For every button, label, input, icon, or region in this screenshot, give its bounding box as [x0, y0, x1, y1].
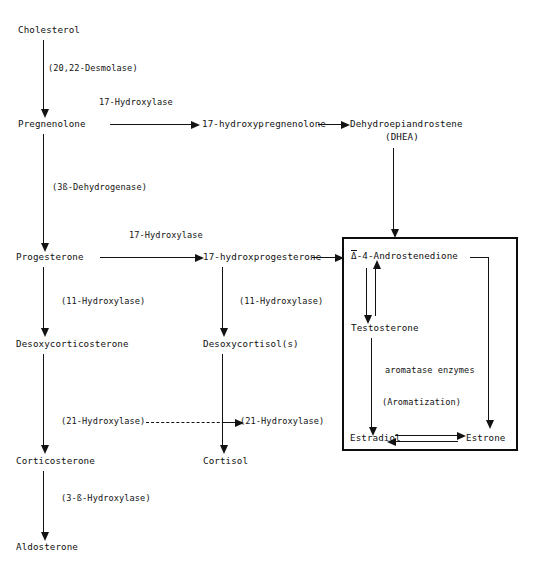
enzyme-label-aromatization: (Aromatization) [382, 396, 461, 408]
enzyme-label-21-hydroxylase-left: (21-Hydroxylase) [61, 415, 145, 427]
node-desoxycorticosterone: Desoxycorticosterone [16, 338, 129, 350]
node-pregnenolone: Pregnenolone [18, 118, 86, 130]
arrow-desoxycorticosterone-to-corticosterone [43, 354, 44, 446]
arrow-cholesterol-to-pregnenolone [43, 40, 44, 110]
enzyme-label-11-hydroxylase-mid: (11-Hydroxylase) [239, 295, 323, 307]
node-17-hydroxprogesterone: 17-hydroxprogesterone [203, 251, 321, 263]
arrow-pregnenolone-to-17-hydroxypregnenolone [110, 124, 192, 125]
arrow-testosterone-to-estradiol [371, 338, 372, 428]
node-cholesterol: Cholesterol [18, 24, 80, 36]
arrow-progesterone-to-17-hydroxprogesterone [100, 257, 196, 258]
enzyme-label-3b-dehydrogenase: (3ß-Dehydrogenase) [52, 181, 147, 193]
gonadal-steroid-box [342, 237, 518, 451]
connector-androstenedione-to-estrone-vertical [488, 257, 489, 421]
enzyme-label-17-hydroxylase-mid: 17-Hydroxylase [129, 229, 203, 241]
arrow-testosterone-to-androstenedione [375, 268, 376, 316]
node-estrone: Estrone [466, 432, 505, 444]
arrow-pregnenolone-to-progesterone [43, 134, 44, 244]
node-cortisol: Cortisol [203, 455, 248, 467]
steroidogenesis-pathway-diagram: Cholesterol (20,22-Desmolase) Pregnenolo… [0, 0, 533, 570]
enzyme-label-3b-hydroxylase: (3-ß-Hydroxylase) [61, 492, 151, 504]
connector-to-21-hydroxylase-mid [222, 422, 236, 423]
arrow-estrone-to-estradiol [395, 441, 458, 442]
node-corticosterone: Corticosterone [16, 455, 95, 467]
enzyme-label-17-hydroxylase-top: 17-Hydroxylase [99, 96, 173, 108]
arrow-17-hydroxprogesterone-to-desoxycortisol [222, 267, 223, 329]
enzyme-label-11-hydroxylase-left: (11-Hydroxylase) [61, 295, 145, 307]
arrow-corticosterone-to-aldosterone [43, 471, 44, 533]
node-17-hydroxypregnenolone: 17-hydroxypregnenolone [202, 118, 326, 130]
connector-androstenedione-to-estrone-horizontal [470, 257, 489, 258]
arrow-dhea-to-androstenedione [393, 148, 394, 230]
arrow-17-hydroxprogesterone-to-androstenedione [312, 257, 336, 258]
node-desoxycortisol: Desoxycortisol(s) [203, 338, 299, 350]
arrow-17-hydroxypregnenolone-to-dhea [318, 124, 342, 125]
node-dhea-abbrev: (DHEA) [385, 131, 419, 143]
arrow-androstenedione-to-testosterone [366, 268, 367, 316]
arrow-progesterone-to-desoxycorticosterone [43, 267, 44, 329]
enzyme-label-desmolase: (20,22-Desmolase) [48, 62, 138, 74]
node-dhea: Dehydroepiandrostene [350, 118, 463, 130]
arrow-estradiol-to-estrone [395, 435, 458, 436]
arrow-desoxycortisol-to-cortisol [222, 354, 223, 446]
enzyme-label-21-hydroxylase-mid: (21-Hydroxylase) [240, 415, 324, 427]
enzyme-label-aromatase-enzymes: aromatase enzymes [385, 364, 475, 376]
node-testosterone: Testosterone [351, 322, 419, 334]
node-androstenedione: Δ-4-Androstenedione [351, 250, 458, 262]
node-aldosterone: Aldosterone [16, 541, 78, 553]
node-progesterone: Progesterone [16, 251, 84, 263]
